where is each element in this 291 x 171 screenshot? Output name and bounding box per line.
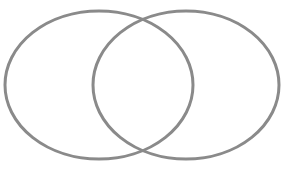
venn-diagram: [0, 0, 291, 171]
left-set-ellipse: [5, 11, 193, 159]
right-set-ellipse: [93, 11, 279, 159]
venn-diagram-canvas: [0, 0, 291, 171]
